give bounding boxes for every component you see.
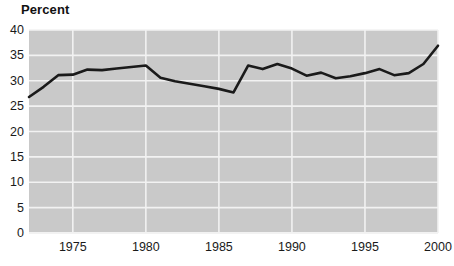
x-tick-label: 1990	[278, 241, 306, 253]
y-tick-label: 30	[0, 75, 24, 87]
x-tick-label: 2000	[424, 241, 452, 253]
y-tick-label: 25	[0, 100, 24, 112]
y-tick-label: 40	[0, 24, 24, 36]
y-tick-label: 0	[0, 227, 24, 239]
chart-figure: Percent 0510152025303540 197519801985199…	[0, 0, 454, 266]
x-tick-label: 1995	[351, 241, 379, 253]
y-tick-label: 35	[0, 49, 24, 61]
y-tick-label: 5	[0, 202, 24, 214]
y-tick-label: 10	[0, 176, 24, 188]
y-tick-label: 15	[0, 151, 24, 163]
y-tick-label: 20	[0, 126, 24, 138]
x-tick-label: 1975	[59, 241, 87, 253]
x-tick-label: 1985	[205, 241, 233, 253]
x-tick-label: 1980	[132, 241, 160, 253]
line-chart-plot	[0, 0, 454, 266]
